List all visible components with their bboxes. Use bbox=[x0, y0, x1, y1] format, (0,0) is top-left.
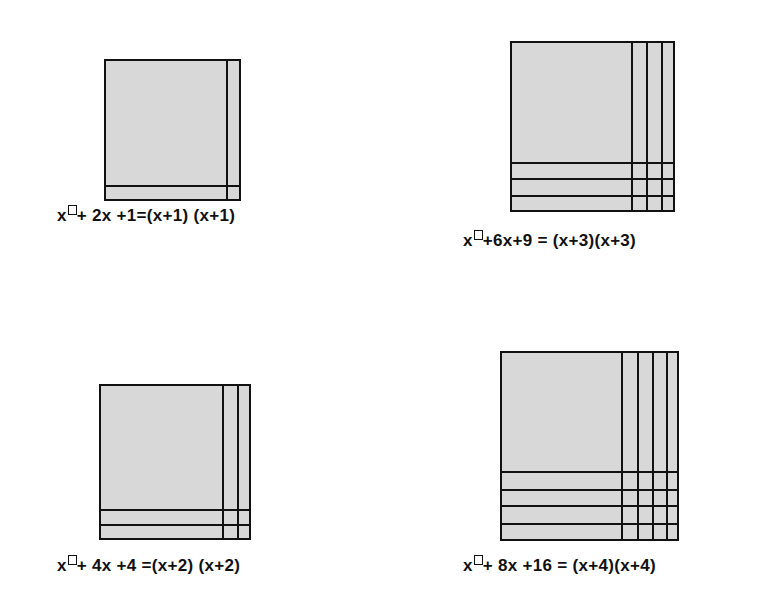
x-strip-divider bbox=[512, 195, 673, 197]
x-strip-divider bbox=[101, 509, 249, 511]
x-strip-divider bbox=[512, 162, 673, 164]
equation-label-n1: x+ 2x +1=(x+1) (x+1) bbox=[57, 206, 235, 226]
x-strip-divider bbox=[237, 386, 239, 538]
variable-x: x bbox=[463, 556, 473, 575]
variable-x: x bbox=[57, 556, 67, 575]
x-strip-divider bbox=[502, 471, 677, 473]
equation-label-n4: x+ 8x +16 = (x+4)(x+4) bbox=[463, 556, 656, 576]
x-strip-divider bbox=[652, 353, 654, 539]
equation-text: +6x+9 = (x+3)(x+3) bbox=[483, 231, 636, 250]
equation-label-n2: x+ 4x +4 =(x+2) (x+2) bbox=[57, 556, 240, 576]
missing-glyph-exponent-icon bbox=[68, 555, 77, 565]
equation-label-n3: x+6x+9 = (x+3)(x+3) bbox=[463, 231, 636, 251]
missing-glyph-exponent-icon bbox=[474, 230, 483, 240]
x-strip-divider bbox=[502, 523, 677, 525]
x-strip-divider bbox=[106, 185, 239, 187]
equation-text: + 4x +4 =(x+2) (x+2) bbox=[77, 556, 240, 575]
x-strip-divider bbox=[631, 43, 633, 210]
x-strip-divider bbox=[222, 386, 224, 538]
equation-text: + 2x +1=(x+1) (x+1) bbox=[77, 206, 235, 225]
algebra-tile-square-n2 bbox=[99, 384, 251, 540]
x-strip-divider bbox=[502, 489, 677, 491]
x-strip-divider bbox=[502, 505, 677, 507]
x-strip-divider bbox=[646, 43, 648, 210]
x-strip-divider bbox=[101, 524, 249, 526]
algebra-tile-square-n1 bbox=[104, 59, 241, 201]
algebra-tile-square-n4 bbox=[500, 351, 679, 541]
x-strip-divider bbox=[637, 353, 639, 539]
x-strip-divider bbox=[512, 178, 673, 180]
x-strip-divider bbox=[661, 43, 663, 210]
x-strip-divider bbox=[226, 61, 228, 199]
missing-glyph-exponent-icon bbox=[68, 205, 77, 215]
x-strip-divider bbox=[666, 353, 668, 539]
algebra-tile-square-n3 bbox=[510, 41, 675, 212]
x-strip-divider bbox=[621, 353, 623, 539]
equation-text: + 8x +16 = (x+4)(x+4) bbox=[483, 556, 656, 575]
variable-x: x bbox=[463, 231, 473, 250]
variable-x: x bbox=[57, 206, 67, 225]
missing-glyph-exponent-icon bbox=[474, 555, 483, 565]
